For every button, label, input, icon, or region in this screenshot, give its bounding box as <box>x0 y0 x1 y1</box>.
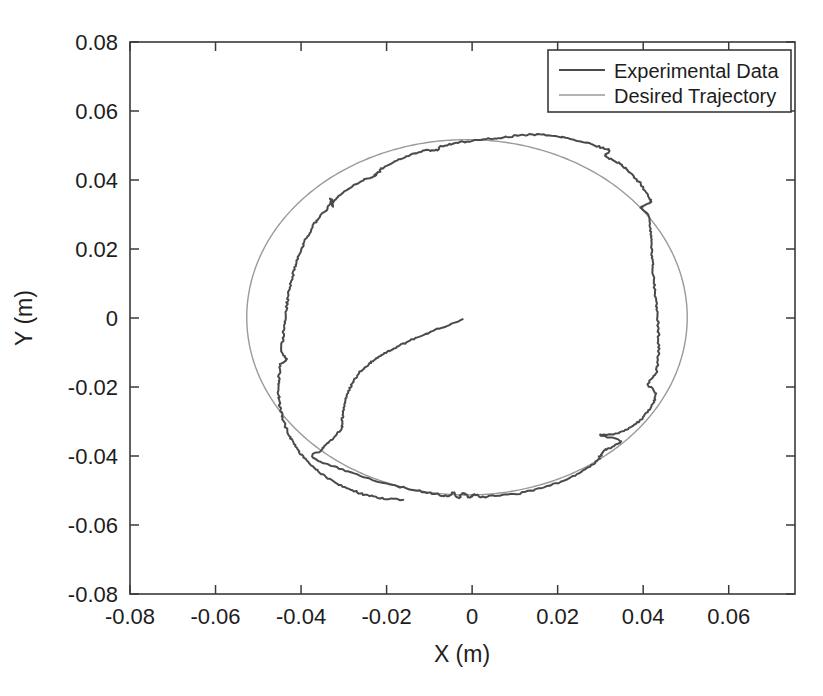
x-tick-label: 0 <box>466 604 478 629</box>
x-tick-label: -0.08 <box>105 604 155 629</box>
legend: Experimental Data Desired Trajectory <box>548 50 791 112</box>
y-tick-label: -0.02 <box>68 375 118 400</box>
x-tick-label: -0.04 <box>276 604 326 629</box>
x-axis-title: X (m) <box>434 641 490 667</box>
y-tick-label: 0.04 <box>75 168 118 193</box>
y-tick-label: -0.06 <box>68 513 118 538</box>
figure-container: -0.08-0.06-0.04-0.0200.020.040.06 0.080.… <box>0 0 823 696</box>
plot-svg: -0.08-0.06-0.04-0.0200.020.040.06 0.080.… <box>0 0 823 696</box>
x-tick-label: 0.04 <box>622 604 665 629</box>
y-axis-title: Y (m) <box>11 290 37 346</box>
y-tick-label: 0.02 <box>75 237 118 262</box>
legend-label-desired: Desired Trajectory <box>614 85 776 107</box>
x-tick-label: 0.02 <box>536 604 579 629</box>
legend-label-experimental: Experimental Data <box>614 60 779 82</box>
y-tick-label: 0 <box>106 306 118 331</box>
y-tick-label: 0.08 <box>75 30 118 55</box>
y-tick-label: -0.08 <box>68 582 118 607</box>
x-tick-label: -0.02 <box>362 604 412 629</box>
x-tick-label: -0.06 <box>190 604 240 629</box>
x-tick-label: 0.06 <box>707 604 750 629</box>
y-tick-label: 0.06 <box>75 99 118 124</box>
y-tick-label: -0.04 <box>68 444 118 469</box>
